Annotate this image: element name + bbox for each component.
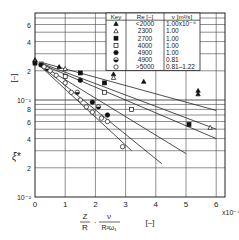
x-tick-label: 5 bbox=[184, 200, 189, 209]
filled-square-marker bbox=[114, 36, 118, 40]
y-tick-label: 6 bbox=[27, 22, 31, 29]
xlabel-frac1-num: Z bbox=[83, 212, 88, 221]
x-tick-label: 1 bbox=[63, 200, 68, 209]
legend: KeyRe [–]ν [m²/s]<20001.00x10⁻⁶23001.002… bbox=[106, 13, 200, 71]
filled-circle-marker bbox=[78, 78, 82, 82]
filled-square-marker bbox=[33, 61, 37, 65]
x-tick-label: 6 bbox=[214, 200, 219, 209]
open-circle-marker bbox=[48, 69, 52, 73]
y-tick-label: 2 bbox=[27, 68, 31, 75]
x-tick-labels: 0123456 bbox=[33, 200, 219, 209]
open-circle-marker bbox=[63, 81, 67, 85]
xlabel-dot: · bbox=[94, 218, 97, 227]
y-axis-label: ξ* [–] bbox=[9, 74, 21, 163]
x-tick-label: 4 bbox=[154, 200, 159, 209]
xlabel-frac2-den: R²ω₁ bbox=[101, 224, 117, 231]
open-circle-marker bbox=[120, 145, 124, 149]
legend-header: ν [m²/s] bbox=[172, 13, 193, 20]
legend-re-value: 4900 bbox=[138, 49, 153, 56]
legend-header: Re [–] bbox=[137, 13, 154, 20]
open-circle-marker bbox=[78, 98, 82, 102]
legend-nu-value: 1.00x10⁻⁶ bbox=[166, 20, 196, 27]
legend-header: Key bbox=[111, 13, 123, 20]
xlabel-unit: [–] bbox=[146, 218, 155, 227]
open-circle-marker bbox=[54, 73, 58, 77]
y-tick-label: 2 bbox=[27, 165, 31, 172]
legend-re-value: >5000 bbox=[136, 63, 155, 70]
open-circle-marker bbox=[90, 110, 94, 114]
data-points bbox=[33, 58, 213, 149]
legend-nu-value: 0.81–1.22 bbox=[166, 63, 195, 70]
y-label-symbol: ξ* bbox=[12, 151, 21, 163]
open-square-marker bbox=[130, 107, 134, 111]
filled-circle-marker bbox=[105, 113, 109, 117]
legend-re-value: 2300 bbox=[138, 27, 153, 34]
legend-nu-value: 1.00 bbox=[166, 42, 179, 49]
fit-line bbox=[41, 63, 216, 129]
x-multiplier: x10⁻⁴ bbox=[222, 209, 239, 216]
chart-container: 64210⁻¹864210⁻² 0123456 x10⁻⁴ ξ* [–] Z R… bbox=[0, 0, 239, 240]
xlabel-frac2-num: ν bbox=[107, 212, 111, 221]
y-tick-label: 10⁻¹ bbox=[17, 97, 32, 104]
x-tick-label: 2 bbox=[93, 200, 98, 209]
y-tick-label: 4 bbox=[27, 136, 31, 143]
x-axis-label: Z R · ν R²ω₁ [–] bbox=[80, 212, 154, 232]
open-circle-marker bbox=[42, 65, 46, 69]
filled-square-marker bbox=[78, 71, 82, 75]
legend-re-value: <2000 bbox=[136, 20, 155, 27]
legend-re-value: 2700 bbox=[138, 35, 153, 42]
legend-re-value: 4900 bbox=[138, 56, 153, 63]
filled-circle-marker bbox=[90, 100, 94, 104]
y-tick-label: 4 bbox=[27, 39, 31, 46]
chart-svg: 64210⁻¹864210⁻² 0123456 x10⁻⁴ ξ* [–] Z R… bbox=[0, 0, 239, 240]
y-tick-label: 10⁻² bbox=[17, 194, 32, 201]
y-tick-label: 6 bbox=[27, 119, 31, 126]
legend-nu-value: 1.00 bbox=[166, 49, 179, 56]
filled-triangle-marker bbox=[142, 79, 146, 83]
legend-nu-value: 1.00 bbox=[166, 27, 179, 34]
open-circle-marker bbox=[99, 116, 103, 120]
x-tick-label: 0 bbox=[33, 200, 38, 209]
half-circle-marker bbox=[75, 90, 79, 94]
open-square-marker bbox=[114, 43, 118, 47]
open-circle-marker bbox=[69, 90, 73, 94]
open-square-marker bbox=[102, 90, 106, 94]
open-circle-marker bbox=[114, 65, 118, 69]
open-square-marker bbox=[63, 74, 67, 78]
filled-square-marker bbox=[102, 81, 106, 85]
legend-nu-value: 0.81 bbox=[166, 56, 179, 63]
half-circle-marker bbox=[96, 105, 100, 109]
legend-nu-value: 1.00 bbox=[166, 35, 179, 42]
filled-circle-marker bbox=[114, 50, 118, 54]
filled-square-marker bbox=[187, 122, 191, 126]
x-tick-label: 3 bbox=[123, 200, 128, 209]
y-tick-label: 8 bbox=[27, 106, 31, 113]
xlabel-frac1-den: R bbox=[82, 223, 88, 232]
open-circle-marker bbox=[105, 119, 109, 123]
legend-re-value: 4000 bbox=[138, 42, 153, 49]
y-unit: [–] bbox=[9, 74, 18, 83]
open-circle-marker bbox=[84, 105, 88, 109]
y-tick-labels: 64210⁻¹864210⁻² bbox=[17, 22, 32, 201]
half-circle-marker bbox=[114, 58, 118, 62]
